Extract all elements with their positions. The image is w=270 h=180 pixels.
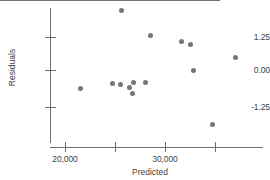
x-tick-label: 20,000: [35, 155, 95, 164]
data-point: [143, 80, 148, 85]
x-tick-mark: [165, 142, 166, 152]
x-tick-label: 30,000: [135, 155, 195, 164]
y-tick-label: -1.25: [232, 103, 270, 112]
y-tick-mark: [45, 37, 56, 38]
y-axis-title: Residuals: [8, 33, 17, 103]
y-axis-line: [50, 8, 51, 143]
x-axis-line: [50, 147, 263, 148]
data-point: [210, 122, 215, 127]
x-tick-mark: [115, 142, 116, 152]
data-point: [130, 91, 135, 96]
data-point: [131, 80, 136, 85]
data-point: [110, 81, 115, 86]
y-tick-mark: [45, 107, 56, 108]
data-point: [191, 68, 196, 73]
scatter-plot: 1.25 0.00 -1.25 20,000 30,000 Residuals …: [0, 0, 270, 180]
x-tick-mark: [65, 142, 66, 152]
data-point: [127, 85, 132, 90]
zero-reference-line: [0, 0, 220, 1]
data-point: [233, 55, 238, 60]
y-tick-label: 0.00: [232, 66, 270, 75]
y-tick-label: 1.25: [232, 33, 270, 42]
y-tick-mark: [45, 70, 56, 71]
x-axis-title: Predicted: [90, 168, 210, 177]
data-point: [179, 39, 184, 44]
data-point: [188, 42, 193, 47]
data-point: [118, 82, 123, 87]
data-point: [119, 8, 124, 13]
data-point: [148, 33, 153, 38]
x-tick-mark: [215, 142, 216, 152]
data-point: [78, 86, 83, 91]
